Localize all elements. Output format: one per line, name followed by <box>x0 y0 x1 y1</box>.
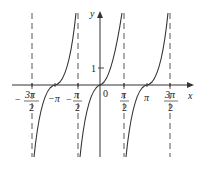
x-tick-label-neg-3pi-2: − 3π 2 <box>15 89 39 113</box>
svg-text:−: − <box>15 94 21 105</box>
tan-curves <box>34 13 168 157</box>
svg-text:2: 2 <box>122 102 127 113</box>
svg-text:3π: 3π <box>24 89 36 100</box>
x-tick-label-pi: π <box>144 92 150 103</box>
x-tick-label-pi-2: π 2 <box>120 89 129 113</box>
x-tick-label-neg-pi-2: − π 2 <box>66 89 82 113</box>
x-axis-label: x <box>187 90 193 101</box>
x-tick-label-neg-pi: −π <box>48 93 61 104</box>
y-axis-arrow-icon <box>97 11 103 18</box>
y-axis-label: y <box>89 8 95 19</box>
svg-text:π: π <box>121 89 127 100</box>
svg-text:2: 2 <box>75 102 80 113</box>
y-tick-1-label: 1 <box>91 63 96 74</box>
x-axis-arrow-icon <box>187 82 194 88</box>
svg-text:−: − <box>66 94 72 105</box>
origin-label: 0 <box>103 88 108 99</box>
svg-text:π: π <box>74 89 80 100</box>
tangent-graph: y x 0 1 − 3π 2 −π − π 2 π 2 π 3π 2 <box>0 0 202 173</box>
svg-text:3π: 3π <box>164 89 176 100</box>
svg-text:2: 2 <box>29 102 34 113</box>
svg-text:2: 2 <box>168 102 173 113</box>
x-tick-label-3pi-2: 3π 2 <box>164 89 178 113</box>
